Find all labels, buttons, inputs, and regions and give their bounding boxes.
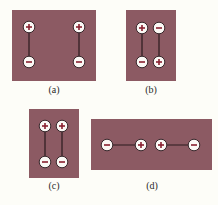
positive-charge-icon <box>155 139 167 151</box>
negative-charge-icon <box>188 139 200 151</box>
negative-charge-icon <box>153 22 165 34</box>
positive-charge-icon <box>136 22 148 34</box>
positive-charge-icon <box>135 139 147 151</box>
negative-charge-icon <box>23 56 35 68</box>
positive-charge-icon <box>153 56 165 68</box>
positive-charge-icon <box>23 21 35 33</box>
negative-charge-icon <box>73 56 85 68</box>
negative-charge-icon <box>136 56 148 68</box>
negative-charge-icon <box>56 156 68 168</box>
positive-charge-icon <box>56 120 68 132</box>
charges-layer <box>0 0 218 205</box>
positive-charge-icon <box>73 21 85 33</box>
negative-charge-icon <box>39 156 51 168</box>
positive-charge-icon <box>39 120 51 132</box>
negative-charge-icon <box>101 139 113 151</box>
